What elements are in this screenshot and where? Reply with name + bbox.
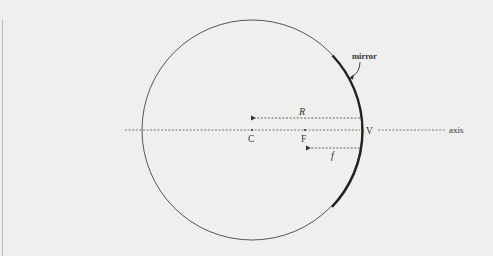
mirror-pointer-arrow <box>351 62 360 77</box>
diagram-canvas: mirror R C F V f axis <box>0 0 493 256</box>
radius-label: R <box>298 106 305 117</box>
vertex-label: V <box>366 126 373 136</box>
mirror-label: mirror <box>352 51 377 61</box>
focal-length-label: f <box>331 150 335 161</box>
center-point-dot <box>251 129 253 131</box>
axis-label: axis <box>449 125 464 135</box>
mirror-diagram: mirror R C F V f axis <box>0 0 493 256</box>
focal-point-dot <box>304 129 306 131</box>
center-label: C <box>248 134 254 144</box>
focal-point-label: F <box>301 134 306 144</box>
